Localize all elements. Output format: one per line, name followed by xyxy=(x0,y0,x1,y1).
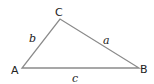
triangle-diagram: A B C a b c xyxy=(0,0,154,84)
triangle-shape xyxy=(22,19,139,68)
side-label-b: b xyxy=(29,32,36,45)
vertex-label-c: C xyxy=(55,6,63,19)
vertex-label-b: B xyxy=(140,63,148,76)
side-label-a: a xyxy=(103,34,110,47)
side-label-c: c xyxy=(72,72,78,84)
vertex-label-a: A xyxy=(11,64,19,77)
triangle-svg: A B C a b c xyxy=(0,0,154,84)
